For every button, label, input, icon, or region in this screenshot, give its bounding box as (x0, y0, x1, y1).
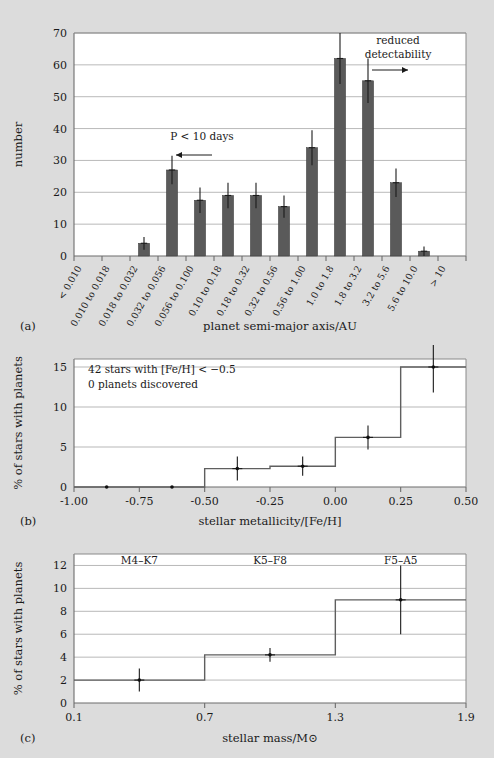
bar-group (334, 33, 345, 256)
panel-a-letter: (a) (20, 319, 36, 333)
panel-b-note-line1: 42 stars with [Fe/H] < −0.5 (88, 363, 236, 375)
spectral-class-label-3: F5–A5 (384, 554, 417, 566)
y-tick-label-a: 60 (53, 59, 67, 72)
panel-c: 0246810120.10.71.31.9M4–K7K5–F8F5–A5% of… (0, 540, 494, 758)
x-tick-label-b: 0.50 (454, 495, 479, 508)
y-axis-title-c: % of stars with planets (11, 562, 25, 696)
y-axis-title-b: % of stars with planets (11, 356, 25, 490)
data-point (268, 653, 272, 657)
x-axis-title-a: planet semi-major axis/AU (203, 319, 357, 333)
y-tick-label-c: 10 (53, 582, 67, 595)
x-tick-label-c: 0.7 (196, 711, 214, 724)
panel-b-note-line2: 0 planets discovered (88, 378, 198, 390)
y-tick-label-a: 40 (53, 123, 67, 136)
y-tick-label-b: 15 (53, 361, 67, 374)
data-point (236, 467, 240, 471)
y-tick-label-c: 6 (60, 628, 67, 641)
annotation-detect-line2: detectability (365, 48, 432, 60)
x-tick-label-b: -0.75 (125, 495, 153, 508)
data-point-group (105, 485, 109, 489)
y-tick-label-c: 2 (60, 674, 67, 687)
y-tick-label-c: 8 (60, 605, 67, 618)
x-tick-label-a: 1.8 to 3.2 (332, 264, 364, 308)
x-tick-label-b: -0.25 (256, 495, 284, 508)
x-tick-label-a: 3.2 to 5.6 (360, 263, 392, 307)
y-tick-label-a: 0 (60, 250, 67, 263)
y-tick-label-b: 0 (60, 481, 67, 494)
x-tick-label-a: < 0.010 (56, 263, 84, 301)
data-point (105, 485, 109, 489)
x-tick-label-b: 0.25 (388, 495, 413, 508)
y-tick-label-a: 70 (53, 27, 67, 40)
data-point (432, 365, 436, 369)
x-tick-label-c: 1.9 (457, 711, 475, 724)
panel-c-letter: (c) (20, 731, 35, 745)
y-tick-label-a: 10 (53, 218, 67, 231)
x-tick-label-b: 0.00 (323, 495, 348, 508)
panel-a-plot-area (74, 33, 466, 256)
x-tick-label-b: -1.00 (60, 495, 88, 508)
annotation-period-label: P < 10 days (170, 130, 234, 142)
data-point (138, 678, 142, 682)
x-axis-title-c: stellar mass/M⊙ (222, 731, 318, 745)
y-axis-title-a: number (11, 121, 25, 167)
x-tick-label-c: 1.3 (327, 711, 345, 724)
y-tick-label-b: 5 (60, 441, 67, 454)
data-point (301, 464, 305, 468)
spectral-class-label-2: K5–F8 (253, 554, 287, 566)
bar-group (306, 130, 317, 256)
y-tick-label-a: 50 (53, 91, 67, 104)
data-point (366, 436, 370, 440)
panel-a: 010203040506070< 0.0100.010 to 0.0180.01… (0, 0, 494, 345)
bar (362, 81, 373, 256)
panel-c-plot: 0246810120.10.71.31.9M4–K7K5–F8F5–A5% of… (0, 540, 494, 758)
y-tick-label-a: 20 (53, 186, 67, 199)
x-tick-label-c: 0.1 (65, 711, 83, 724)
bar-group (166, 156, 177, 256)
data-point (399, 598, 403, 602)
y-tick-label-c: 4 (60, 651, 67, 664)
bar (334, 58, 345, 256)
data-point (170, 485, 174, 489)
panel-b-letter: (b) (20, 514, 36, 528)
spectral-class-label-1: M4–K7 (121, 554, 158, 566)
y-tick-label-b: 10 (53, 401, 67, 414)
panel-b-plot: 051015-1.00-0.75-0.50-0.250.000.250.50% … (0, 345, 494, 540)
figure-root: 010203040506070< 0.0100.010 to 0.0180.01… (0, 0, 494, 758)
x-axis-title-b: stellar metallicity/[Fe/H] (198, 514, 341, 528)
bar-group (362, 58, 373, 256)
panel-a-plot: 010203040506070< 0.0100.010 to 0.0180.01… (0, 0, 494, 345)
annotation-detect-line1: reduced (376, 34, 420, 46)
y-tick-label-c: 12 (53, 559, 67, 572)
y-tick-label-a: 30 (53, 154, 67, 167)
y-tick-label-c: 0 (60, 697, 67, 710)
x-tick-label-b: -0.50 (191, 495, 219, 508)
x-tick-label-a: 1.0 to 1.8 (304, 263, 336, 307)
panel-b: 051015-1.00-0.75-0.50-0.250.000.250.50% … (0, 345, 494, 540)
x-tick-label-a: > 10 (427, 263, 448, 288)
data-point-group (170, 485, 174, 489)
